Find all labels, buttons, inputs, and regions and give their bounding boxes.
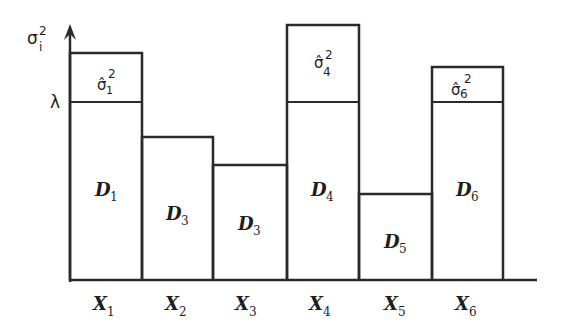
bars [70,25,503,280]
svg-text:4: 4 [326,190,334,204]
svg-text:4: 4 [323,65,331,79]
excess-label-4: σ̂ 4 2 [314,48,333,79]
svg-text:X: X [92,293,108,314]
y-axis-label: σ i 2 [27,24,47,54]
svg-text:X: X [454,293,470,314]
svg-text:X: X [383,293,399,314]
svg-text:X: X [308,293,324,314]
x-label-2: X 2 [164,293,187,319]
svg-text:5: 5 [399,242,407,256]
svg-text:2: 2 [39,24,47,38]
svg-text:5: 5 [398,305,406,319]
d-label-3: D 3 [237,213,261,238]
svg-text:2: 2 [108,67,116,81]
svg-text:X: X [234,293,250,314]
svg-text:σ: σ [27,28,38,48]
svg-text:D: D [165,203,182,224]
x-label-3: X 3 [234,293,257,319]
svg-text:2: 2 [325,48,333,62]
excess-label-1: σ̂ 1 2 [97,67,116,97]
svg-text:1: 1 [107,305,115,319]
svg-text:D: D [383,231,400,252]
excess-label-6: σ̂ 6 2 [451,72,472,101]
svg-text:i: i [39,40,42,54]
svg-text:4: 4 [323,305,331,319]
svg-text:D: D [237,213,254,234]
svg-text:1: 1 [110,190,118,204]
svg-text:1: 1 [106,84,113,97]
reverse-water-filling-diagram: σ i 2 λ σ̂ 1 2 σ̂ 4 2 σ̂ 6 2 D 1 D [0,0,563,331]
svg-text:2: 2 [179,305,187,319]
x-label-1: X 1 [92,293,115,319]
d-label-1: D 1 [94,179,118,204]
threshold-label: λ [50,92,60,112]
x-label-5: X 5 [383,293,406,319]
svg-text:6: 6 [471,190,479,204]
svg-text:D: D [94,179,111,200]
x-label-6: X 6 [454,293,477,319]
svg-text:3: 3 [253,224,261,238]
svg-text:3: 3 [181,214,189,228]
svg-text:6: 6 [460,87,468,101]
d-label-5: D 5 [383,231,407,256]
svg-text:D: D [310,179,327,200]
svg-text:6: 6 [469,305,477,319]
d-label-2: D 3 [165,203,189,228]
svg-text:3: 3 [249,305,257,319]
d-label-4: D 4 [310,179,334,204]
x-label-4: X 4 [308,293,331,319]
svg-text:2: 2 [464,72,472,86]
svg-text:X: X [164,293,180,314]
svg-text:D: D [455,179,472,200]
d-label-6: D 6 [455,179,479,204]
